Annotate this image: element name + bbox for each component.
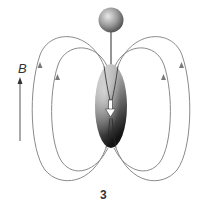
arrowhead-icon bbox=[161, 74, 166, 80]
field-label: B bbox=[18, 61, 27, 76]
arrowhead-icon bbox=[55, 74, 60, 80]
dipole-diagram: B 3 bbox=[0, 0, 202, 208]
arrowhead-icon bbox=[179, 62, 184, 68]
arrow-up-icon bbox=[18, 77, 23, 84]
field-b-arrow bbox=[18, 77, 23, 141]
arrowhead-icon bbox=[38, 62, 43, 68]
spheroid-magnet bbox=[95, 64, 127, 148]
field-line-outer-left bbox=[32, 37, 106, 181]
pivot-ball bbox=[99, 8, 124, 33]
field-line-outer-right bbox=[116, 37, 190, 181]
panel-number: 3 bbox=[100, 188, 107, 202]
